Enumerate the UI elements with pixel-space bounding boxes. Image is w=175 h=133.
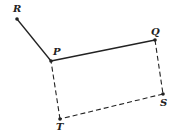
segment-t-p [51,61,60,119]
point-p [49,59,53,63]
label-q: Q [151,26,160,37]
point-q [153,38,157,42]
label-r: R [12,3,21,14]
segment-r-p [17,19,51,61]
segment-p-q [51,40,155,61]
label-p: P [52,46,61,57]
point-r [15,17,19,21]
label-s: S [160,97,167,108]
segment-q-s [155,40,163,94]
point-s [161,92,165,96]
label-t: T [56,121,65,132]
segment-s-t [60,94,163,119]
geometry-diagram: R P Q S T [0,0,175,133]
